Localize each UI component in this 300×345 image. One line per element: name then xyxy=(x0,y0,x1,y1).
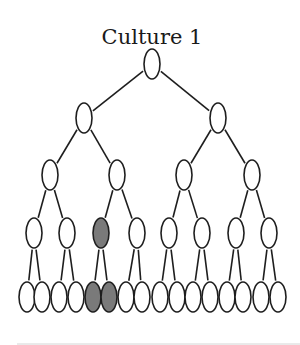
tree-edge xyxy=(29,250,32,281)
tree-edge xyxy=(57,130,77,164)
tree-edge xyxy=(191,130,211,164)
tree-node xyxy=(129,218,145,248)
tree-node xyxy=(144,49,160,79)
tree-diagram: Culture 1 xyxy=(0,0,300,345)
tree-edge xyxy=(93,71,143,111)
tree-edge xyxy=(54,190,62,218)
tree-node xyxy=(68,282,84,312)
tree-node-highlighted xyxy=(101,282,117,312)
tree-node-highlighted xyxy=(85,282,101,312)
tree-node xyxy=(134,282,150,312)
tree-node xyxy=(161,218,177,248)
tree-edge xyxy=(271,249,275,280)
tree-edge xyxy=(91,130,110,163)
tree-node xyxy=(169,282,185,312)
tree-edge xyxy=(38,190,46,217)
tree-node xyxy=(270,282,286,312)
tree-node xyxy=(118,282,134,312)
tree-node xyxy=(244,160,260,190)
tree-edge xyxy=(162,249,166,280)
tree-node xyxy=(51,282,67,312)
tree-node-highlighted xyxy=(93,218,109,248)
tree-node xyxy=(176,160,192,190)
tree-node xyxy=(109,160,125,190)
tree-node xyxy=(210,103,226,133)
tree-edge xyxy=(173,190,180,217)
diagram-title: Culture 1 xyxy=(102,25,203,49)
tree-node xyxy=(185,282,201,312)
tree-node xyxy=(219,282,235,312)
tree-edge xyxy=(256,190,264,218)
tree-edge xyxy=(238,250,241,281)
tree-edge xyxy=(225,130,245,164)
tree-node xyxy=(42,160,58,190)
tree-edge xyxy=(263,250,267,281)
tree-edge xyxy=(204,250,208,281)
tree-node xyxy=(202,282,218,312)
tree-edge xyxy=(138,250,140,280)
tree-node xyxy=(152,282,168,312)
tree-edge xyxy=(61,250,65,281)
tree-edge xyxy=(122,189,132,218)
tree-edge xyxy=(229,249,233,280)
tree-edge xyxy=(129,249,134,281)
tree-edge xyxy=(103,250,107,281)
tree-node xyxy=(235,282,251,312)
tree-edge xyxy=(95,250,99,281)
tree-edges xyxy=(29,71,276,281)
tree-node xyxy=(19,282,35,312)
tree-edge xyxy=(195,249,199,280)
tree-node xyxy=(76,103,92,133)
tree-node xyxy=(253,282,269,312)
tree-node xyxy=(59,218,75,248)
tree-edge xyxy=(240,190,248,217)
tree-edge xyxy=(161,71,209,110)
tree-edge xyxy=(36,250,40,281)
tree-edge xyxy=(69,249,73,280)
tree-edge xyxy=(189,190,198,218)
tree-edge xyxy=(171,250,175,281)
tree-node xyxy=(26,218,42,248)
tree-node xyxy=(194,218,210,248)
tree-edge xyxy=(105,190,113,217)
tree-node xyxy=(261,218,277,248)
tree-node xyxy=(228,218,244,248)
tree-node xyxy=(34,282,50,312)
tree-nodes xyxy=(19,49,286,312)
